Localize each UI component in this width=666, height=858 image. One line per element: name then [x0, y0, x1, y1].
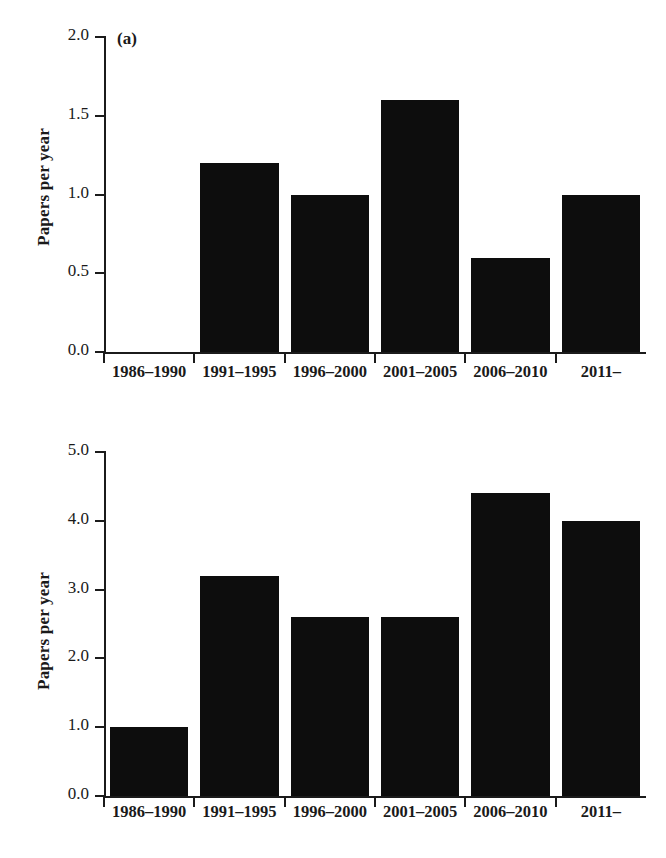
figure-bar-charts: Papers per year (a) 0.00.51.01.52.0 1986… — [0, 0, 666, 858]
bar-b-2 — [291, 617, 369, 796]
y-tick-b-4: 4.0 — [95, 520, 104, 522]
x-axis-label-a-1: 1991–1995 — [194, 362, 284, 382]
y-tick-b-3: 3.0 — [95, 589, 104, 591]
y-tick-a-4: 2.0 — [95, 36, 104, 38]
y-tick-label-b-0: 0.0 — [68, 784, 89, 804]
y-tick-label-b-1: 1.0 — [68, 715, 89, 735]
bar-b-4 — [471, 493, 549, 796]
y-tick-a-2: 1.0 — [95, 194, 104, 196]
bar-a-5 — [562, 195, 640, 353]
bars-b — [104, 452, 646, 796]
x-axis-label-b-1: 1991–1995 — [194, 802, 284, 822]
bar-a-2 — [291, 195, 369, 353]
y-tick-label-a-0: 0.0 — [68, 340, 89, 360]
y-axis-label-b: Papers per year — [34, 466, 54, 796]
y-tick-label-a-1: 0.5 — [68, 261, 89, 281]
y-tick-b-1: 1.0 — [95, 726, 104, 728]
y-tick-label-a-2: 1.0 — [68, 183, 89, 203]
y-tick-b-5: 5.0 — [95, 451, 104, 453]
y-tick-b-2: 2.0 — [95, 657, 104, 659]
y-tick-label-b-2: 2.0 — [68, 646, 89, 666]
x-axis-label-a-3: 2001–2005 — [375, 362, 465, 382]
x-axis-label-a-5: 2011– — [556, 362, 646, 382]
plot-area-a: 0.00.51.01.52.0 — [104, 37, 646, 352]
bar-a-4 — [471, 258, 549, 353]
bar-b-3 — [381, 617, 459, 796]
x-axis-labels-a: 1986–19901991–19951996–20002001–20052006… — [104, 362, 646, 388]
y-tick-a-3: 1.5 — [95, 115, 104, 117]
y-tick-label-b-5: 5.0 — [68, 440, 89, 460]
x-axis-label-b-3: 2001–2005 — [375, 802, 465, 822]
x-axis-label-b-4: 2006–2010 — [465, 802, 555, 822]
y-axis-label-a: Papers per year — [34, 22, 54, 352]
bar-a-1 — [200, 163, 278, 352]
bars-a — [104, 37, 646, 352]
bar-a-3 — [381, 100, 459, 352]
x-axis-label-a-2: 1996–2000 — [285, 362, 375, 382]
y-tick-label-b-3: 3.0 — [68, 578, 89, 598]
y-tick-label-a-4: 2.0 — [68, 25, 89, 45]
y-tick-label-b-4: 4.0 — [68, 509, 89, 529]
x-axis-label-a-0: 1986–1990 — [104, 362, 194, 382]
bar-b-5 — [562, 521, 640, 796]
x-axis-label-b-2: 1996–2000 — [285, 802, 375, 822]
panel-b: Papers per year (b) 0.01.02.03.04.05.0 1… — [0, 420, 666, 858]
y-tick-a-1: 0.5 — [95, 272, 104, 274]
x-axis-label-b-5: 2011– — [556, 802, 646, 822]
x-axis-label-a-4: 2006–2010 — [465, 362, 555, 382]
x-axis-labels-b: 1986–19901991–19951996–20002001–20052006… — [104, 802, 646, 828]
bar-b-0 — [110, 727, 188, 796]
plot-area-b: 0.01.02.03.04.05.0 — [104, 452, 646, 796]
panel-a: Papers per year (a) 0.00.51.01.52.0 1986… — [0, 0, 666, 420]
bar-b-1 — [200, 576, 278, 796]
x-axis-label-b-0: 1986–1990 — [104, 802, 194, 822]
y-tick-label-a-3: 1.5 — [68, 104, 89, 124]
